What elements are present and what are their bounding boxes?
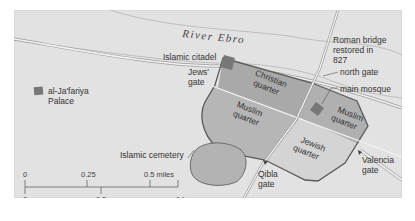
scale-miles-0: 0 <box>23 170 27 179</box>
zaragoza-map: River Ebro al-Ja'fariyaPalace Islamic ci… <box>14 10 402 198</box>
scale-miles-05: 0.5 miles <box>144 170 174 179</box>
scale-km-1: 1 km <box>176 195 192 198</box>
north-gate-label: north gate <box>340 67 379 77</box>
scale-km-05: 0.5 <box>96 195 106 198</box>
palace-building <box>34 87 44 96</box>
main-mosque-label: main mosque <box>340 84 391 94</box>
cemetery-label: Islamic cemetery <box>120 150 185 160</box>
citadel-label: Islamic citadel <box>163 52 216 62</box>
scale-miles-025: 0.25 <box>81 170 96 179</box>
scale-km-0: 0 <box>23 195 27 198</box>
islamic-cemetery-area <box>190 143 246 185</box>
